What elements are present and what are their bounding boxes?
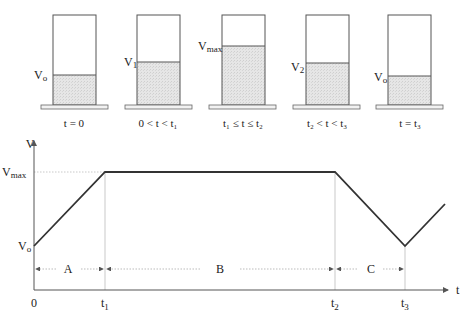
tank-2-level-label: V1	[124, 55, 137, 70]
tank-5-base	[376, 105, 443, 109]
tank-1-level-label: Vo	[34, 68, 48, 83]
tank-3: Vmax t₁ ≤ t ≤ t₂	[198, 15, 276, 129]
x-tick-0: 0	[31, 296, 37, 310]
tank-2-caption: 0 < t < t₁	[139, 117, 178, 129]
phase-a-label: A	[64, 262, 73, 276]
tank-4-caption: t₂ < t < t₃	[307, 117, 347, 129]
phase-c-label: C	[367, 262, 375, 276]
y-axis-label: V	[26, 137, 35, 151]
tank-3-base	[209, 105, 276, 109]
tank-4: V2 t₂ < t < t₃	[291, 15, 360, 129]
tank-5-fill	[388, 76, 431, 105]
volume-time-graph: V t Vmax Vo 0 t1 t2 t3 A B C	[2, 137, 460, 312]
phase-b-label: B	[216, 262, 224, 276]
phase-a-interval: A	[36, 262, 103, 276]
tank-1-base	[41, 105, 108, 109]
x-tick-t2: t2	[331, 296, 339, 312]
tank-5-level-label: Vo	[374, 70, 388, 85]
x-axis-label: t	[456, 283, 460, 297]
y-tick-vo: Vo	[18, 239, 32, 254]
tank-5-caption: t = t₃	[399, 117, 421, 129]
tank-2: V1 0 < t < t₁	[124, 15, 192, 129]
diagram: Vo t = 0 V1 0 < t < t₁ Vmax t₁ ≤ t ≤ t₂ …	[0, 0, 466, 320]
volume-curve	[34, 172, 445, 246]
x-tick-t3: t3	[401, 296, 409, 312]
y-tick-vmax: Vmax	[2, 165, 27, 180]
tank-5: Vo t = t₃	[374, 15, 443, 129]
tank-1-fill	[53, 75, 96, 105]
tank-4-base	[293, 105, 360, 109]
tank-4-level-label: V2	[291, 60, 304, 75]
tank-3-level-label: Vmax	[198, 39, 223, 54]
tank-1-caption: t = 0	[64, 117, 85, 129]
phase-b-interval: B	[107, 262, 333, 276]
phase-c-interval: C	[337, 262, 403, 276]
tank-1: Vo t = 0	[34, 15, 108, 129]
x-tick-t1: t1	[101, 296, 109, 312]
tank-2-fill	[137, 62, 180, 105]
tank-3-caption: t₁ ≤ t ≤ t₂	[223, 117, 263, 129]
tank-2-base	[125, 105, 192, 109]
tank-4-fill	[306, 63, 349, 105]
tank-3-fill	[222, 46, 265, 105]
